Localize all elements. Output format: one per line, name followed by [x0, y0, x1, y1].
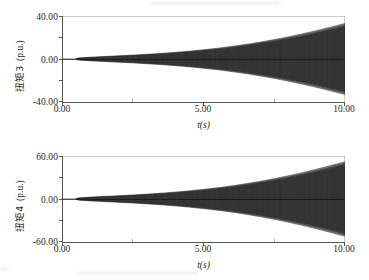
x-axis-title-bottom: t(s) — [62, 260, 345, 270]
x-axis-title-top: t(s) — [62, 120, 345, 130]
y-tick-label-top-zero: 0.00 — [41, 55, 58, 65]
x-tick-label-bottom-5: 5.00 — [195, 244, 212, 254]
y-axis-title-name-top: 扭矩3 — [14, 66, 25, 92]
y-axis-title-unit-bottom: (p.u.) — [15, 180, 25, 201]
y-tick-label-bottom-zero: 0.00 — [41, 195, 58, 205]
chart-panel-top: 扭矩3 (p.u.) 40.00 0.00 -40.00 0.00 — [0, 0, 369, 140]
x-tick-label-top-5: 5.00 — [195, 104, 212, 114]
plot-area-bottom — [62, 156, 345, 242]
y-axis-title-unit-top: (p.u.) — [15, 40, 25, 61]
x-tick-label-top-10: 10.00 — [333, 104, 354, 114]
waveform-top — [62, 16, 345, 102]
y-tick-label-bottom-max: 60.00 — [36, 152, 58, 162]
x-tick-label-bottom-10: 10.00 — [333, 244, 354, 254]
x-tick-label-bottom-0: 0.00 — [54, 244, 71, 254]
y-axis-title-top: 扭矩3 (p.u.) — [12, 11, 26, 121]
y-tick-label-top-max: 40.00 — [36, 12, 58, 22]
chart-panel-bottom: 扭矩4 (p.u.) 60.00 0.00 -60.00 0.00 — [0, 140, 369, 280]
x-axis-title-text-top: t(s) — [197, 120, 210, 130]
figure-container: 扭矩3 (p.u.) 40.00 0.00 -40.00 0.00 — [0, 0, 369, 280]
y-axis-title-name-bottom: 扭矩4 — [14, 206, 25, 232]
plot-area-top — [62, 16, 345, 102]
y-axis-title-bottom: 扭矩4 (p.u.) — [12, 151, 26, 261]
x-tick-label-top-0: 0.00 — [54, 104, 71, 114]
x-axis-title-text-bottom: t(s) — [197, 260, 210, 270]
waveform-bottom — [62, 156, 345, 242]
